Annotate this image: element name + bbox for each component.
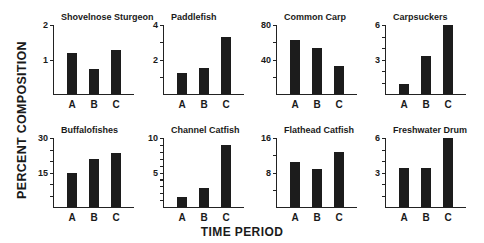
panel-title: Channel Catfish xyxy=(171,125,240,135)
plot-area: 24ABC xyxy=(163,25,244,95)
panel-title: Carpsuckers xyxy=(393,12,448,22)
bar-a xyxy=(177,197,187,207)
x-category-label: B xyxy=(310,99,324,110)
plot-area: 816ABC xyxy=(276,138,357,208)
minor-tick xyxy=(273,190,277,191)
x-category-label: C xyxy=(219,212,233,223)
x-category-label: B xyxy=(87,99,101,110)
bar-c xyxy=(334,66,344,94)
plot-area: 36ABC xyxy=(385,138,466,208)
x-category-label: C xyxy=(441,212,455,223)
x-category-label: C xyxy=(109,99,123,110)
y-tick-label: 8 xyxy=(247,168,271,178)
x-category-label: A xyxy=(397,99,411,110)
major-tick xyxy=(382,60,386,61)
y-tick-label: 2 xyxy=(134,55,158,65)
minor-tick xyxy=(273,42,277,43)
panel-title: Paddlefish xyxy=(171,12,217,22)
major-tick xyxy=(50,25,54,26)
minor-tick xyxy=(382,196,386,197)
y-tick-label: 6 xyxy=(356,20,380,30)
minor-tick xyxy=(50,196,54,197)
y-tick-label: 6 xyxy=(356,133,380,143)
minor-tick xyxy=(160,77,164,78)
bar-b xyxy=(199,68,209,94)
x-category-label: B xyxy=(87,212,101,223)
major-tick xyxy=(50,173,54,174)
minor-tick xyxy=(382,37,386,38)
y-tick-label: 80 xyxy=(247,20,271,30)
minor-tick xyxy=(382,161,386,162)
bar-c xyxy=(443,138,453,207)
bar-b xyxy=(89,159,99,207)
x-category-label: C xyxy=(441,99,455,110)
major-tick xyxy=(50,138,54,139)
figure: PERCENT COMPOSITION TIME PERIOD Shovelno… xyxy=(0,0,484,243)
major-tick xyxy=(273,173,277,174)
x-category-label: A xyxy=(175,99,189,110)
x-category-label: C xyxy=(109,212,123,223)
y-tick-label: 40 xyxy=(247,55,271,65)
plot-area: 1530ABC xyxy=(53,138,134,208)
x-category-label: C xyxy=(219,99,233,110)
x-category-label: A xyxy=(397,212,411,223)
x-category-label: A xyxy=(288,212,302,223)
major-tick xyxy=(50,60,54,61)
y-tick-label: 3 xyxy=(356,168,380,178)
bar-a xyxy=(67,53,77,94)
y-tick-label: 10 xyxy=(134,133,158,143)
plot-area: 12ABC xyxy=(53,25,134,95)
bar-c xyxy=(111,50,121,94)
panel-title: Flathead Catfish xyxy=(284,125,354,135)
x-category-label: A xyxy=(288,99,302,110)
bar-b xyxy=(312,48,322,94)
y-tick-label: 3 xyxy=(356,55,380,65)
chart-panel: Carpsuckers36ABC xyxy=(385,12,484,122)
major-tick xyxy=(273,25,277,26)
x-category-label: B xyxy=(197,212,211,223)
bar-b xyxy=(89,69,99,94)
x-category-label: A xyxy=(175,212,189,223)
major-tick xyxy=(382,138,386,139)
minor-tick xyxy=(160,42,164,43)
major-tick xyxy=(382,173,386,174)
minor-tick xyxy=(382,184,386,185)
bar-c xyxy=(221,145,231,207)
minor-tick xyxy=(273,77,277,78)
minor-tick xyxy=(160,179,164,180)
panel-title: Freshwater Drum xyxy=(393,125,467,135)
y-tick-label: 4 xyxy=(134,20,158,30)
minor-tick xyxy=(160,159,164,160)
panel-title: Buffalofishes xyxy=(61,125,118,135)
minor-tick xyxy=(160,186,164,187)
major-tick xyxy=(160,25,164,26)
x-category-label: B xyxy=(310,212,324,223)
y-tick-label: 16 xyxy=(247,133,271,143)
bar-a xyxy=(177,73,187,94)
panel-title: Common Carp xyxy=(284,12,346,22)
bar-a xyxy=(290,162,300,207)
minor-tick xyxy=(160,152,164,153)
major-tick xyxy=(160,60,164,61)
bar-a xyxy=(290,40,300,94)
x-category-label: A xyxy=(65,99,79,110)
bar-c xyxy=(443,25,453,94)
bar-c xyxy=(334,152,344,207)
bar-a xyxy=(399,168,409,207)
plot-area: 510ABC xyxy=(163,138,244,208)
y-tick-label: 5 xyxy=(134,168,158,178)
plot-area: 36ABC xyxy=(385,25,466,95)
y-tick-label: 1 xyxy=(24,55,48,65)
x-category-label: C xyxy=(332,212,346,223)
y-tick-label: 30 xyxy=(24,133,48,143)
minor-tick xyxy=(50,184,54,185)
minor-tick xyxy=(160,166,164,167)
minor-tick xyxy=(382,71,386,72)
bar-c xyxy=(221,37,231,94)
y-tick-label: 2 xyxy=(24,20,48,30)
minor-tick xyxy=(382,83,386,84)
x-category-label: B xyxy=(419,99,433,110)
bar-a xyxy=(67,173,77,208)
major-tick xyxy=(160,138,164,139)
y-tick-label: 15 xyxy=(24,168,48,178)
